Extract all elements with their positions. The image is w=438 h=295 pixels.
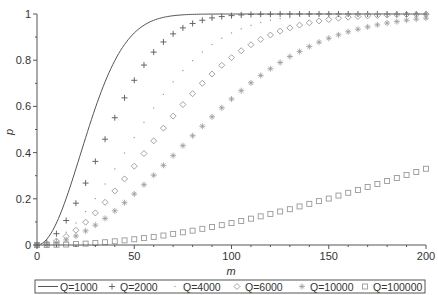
x-tick-label: 0 — [34, 250, 40, 262]
axes: 05010015020000.20.40.60.81 — [16, 8, 435, 262]
legend-label: Q=10000 — [310, 281, 354, 293]
y-tick-label: 0.2 — [16, 193, 31, 205]
legend-label: Q=1000 — [60, 281, 98, 293]
y-tick-label: 1 — [25, 8, 31, 20]
y-tick-label: 0.4 — [16, 147, 31, 159]
chart: 05010015020000.20.40.60.81 m p Q=1000Q=2… — [0, 0, 438, 295]
series-q-6000 — [34, 11, 429, 248]
series-q-10000 — [34, 15, 429, 248]
x-axis-label: m — [226, 265, 235, 277]
x-tick-label: 150 — [320, 250, 338, 262]
y-axis-label: p — [3, 129, 15, 136]
y-tick-label: 0.6 — [16, 100, 31, 112]
x-tick-label: 100 — [222, 250, 240, 262]
series-q-100000 — [35, 166, 429, 247]
plot-series — [34, 11, 429, 248]
y-tick-label: 0.8 — [16, 54, 31, 66]
legend-label: Q=100000 — [373, 281, 422, 293]
x-tick-label: 50 — [128, 250, 140, 262]
legend-label: Q=2000 — [120, 281, 158, 293]
legend-label: Q=4000 — [183, 281, 221, 293]
legend-label: Q=6000 — [245, 281, 283, 293]
x-tick-label: 200 — [417, 250, 435, 262]
y-tick-label: 0 — [25, 239, 31, 251]
legend: Q=1000Q=2000Q=4000Q=6000Q=10000Q=100000 — [35, 280, 425, 293]
